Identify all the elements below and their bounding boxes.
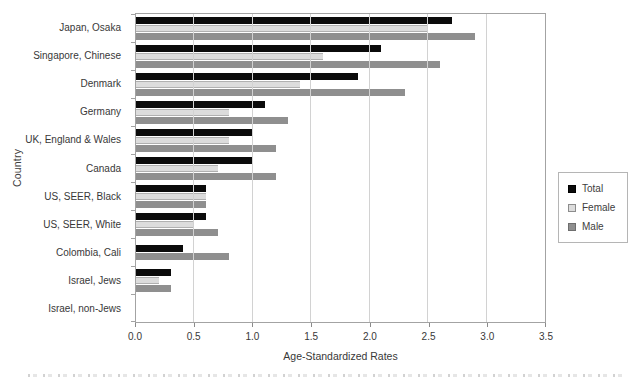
x-axis-tick — [135, 323, 136, 327]
bar-female — [136, 165, 218, 172]
bar-total — [136, 157, 253, 164]
legend-swatch-female — [568, 204, 576, 212]
bar-female — [136, 109, 229, 116]
x-axis-tick-label: 1.0 — [245, 331, 259, 342]
bar-group — [136, 213, 545, 236]
bar-male — [136, 89, 405, 96]
x-axis-tick-label: 0.0 — [128, 331, 142, 342]
y-axis-tick — [131, 42, 135, 43]
bar-total — [136, 213, 206, 220]
x-axis-tick-label: 3.0 — [480, 331, 494, 342]
x-axis-tick — [545, 323, 546, 327]
x-axis-tick-label: 0.5 — [187, 331, 201, 342]
bar-total — [136, 45, 381, 52]
category-label: Colombia, Cali — [0, 239, 128, 267]
bar-rows — [136, 14, 545, 322]
category-label: Israel, non-Jews — [0, 295, 128, 323]
bar-row — [136, 182, 545, 210]
bar-row — [136, 238, 545, 266]
bar-male — [136, 285, 171, 292]
category-label: Singapore, Chinese — [0, 41, 128, 69]
bar-chart-figure: Country Japan, OsakaSingapore, ChineseDe… — [0, 0, 644, 378]
bar-total — [136, 129, 253, 136]
bar-female — [136, 277, 159, 284]
bar-female — [136, 81, 300, 88]
bar-row — [136, 266, 545, 294]
y-axis-category-labels: Japan, OsakaSingapore, ChineseDenmarkGer… — [0, 13, 128, 323]
bar-total — [136, 245, 183, 252]
cropped-caption-fragment — [28, 374, 628, 377]
legend: TotalFemaleMale — [558, 172, 628, 243]
bar-male — [136, 201, 206, 208]
category-label: Israel, Jews — [0, 267, 128, 295]
bar-group — [136, 73, 545, 96]
bar-row — [136, 70, 545, 98]
y-axis-tick — [131, 294, 135, 295]
bar-female — [136, 137, 229, 144]
bar-total — [136, 17, 452, 24]
x-axis-tick-label: 3.5 — [539, 331, 553, 342]
gridline — [252, 14, 253, 322]
bar-female — [136, 25, 428, 32]
x-axis-tick — [370, 323, 371, 327]
y-axis-tick — [131, 238, 135, 239]
y-axis-tick — [131, 70, 135, 71]
category-label: US, SEER, Black — [0, 182, 128, 210]
gridline — [427, 14, 428, 322]
bar-male — [136, 145, 276, 152]
gridline — [486, 14, 487, 322]
bar-female — [136, 53, 323, 60]
bar-group — [136, 129, 545, 152]
bar-female — [136, 221, 194, 228]
category-label: UK, England & Wales — [0, 126, 128, 154]
plot-area — [135, 13, 546, 323]
category-label: Denmark — [0, 69, 128, 97]
bar-row — [136, 294, 545, 322]
x-axis-tick-label: 2.5 — [422, 331, 436, 342]
bar-total — [136, 269, 171, 276]
bar-row — [136, 210, 545, 238]
x-axis-title: Age-Standardized Rates — [135, 350, 546, 362]
bar-group — [136, 269, 545, 292]
y-axis-tick — [131, 266, 135, 267]
x-axis-tick-label: 1.5 — [304, 331, 318, 342]
legend-swatch-male — [568, 223, 576, 231]
bar-total — [136, 185, 206, 192]
x-axis-tick — [487, 323, 488, 327]
gridline — [310, 14, 311, 322]
bar-female — [136, 193, 206, 200]
x-axis-tick — [311, 323, 312, 327]
bar-row — [136, 42, 545, 70]
category-label: Japan, Osaka — [0, 13, 128, 41]
y-axis-tick — [131, 98, 135, 99]
bar-group — [136, 245, 545, 260]
bar-row — [136, 154, 545, 182]
bar-row — [136, 14, 545, 42]
bar-row — [136, 98, 545, 126]
y-axis-tick — [131, 14, 135, 15]
bar-male — [136, 61, 440, 68]
legend-label: Male — [582, 221, 604, 232]
bar-male — [136, 117, 288, 124]
y-axis-tick — [131, 210, 135, 211]
bar-male — [136, 253, 229, 260]
bar-row — [136, 126, 545, 154]
legend-label: Total — [582, 183, 603, 194]
y-axis-tick — [131, 154, 135, 155]
bar-male — [136, 33, 475, 40]
legend-label: Female — [582, 202, 615, 213]
x-axis-ticks — [135, 323, 546, 328]
legend-item-total: Total — [568, 183, 615, 194]
gridline — [369, 14, 370, 322]
bar-male — [136, 229, 218, 236]
legend-swatch-total — [568, 185, 576, 193]
bar-total — [136, 73, 358, 80]
x-axis-tick — [194, 323, 195, 327]
x-axis-tick — [252, 323, 253, 327]
bar-group — [136, 45, 545, 68]
x-axis-tick — [429, 323, 430, 327]
gridline — [193, 14, 194, 322]
legend-item-male: Male — [568, 221, 615, 232]
bar-male — [136, 173, 276, 180]
y-axis-tick — [131, 182, 135, 183]
